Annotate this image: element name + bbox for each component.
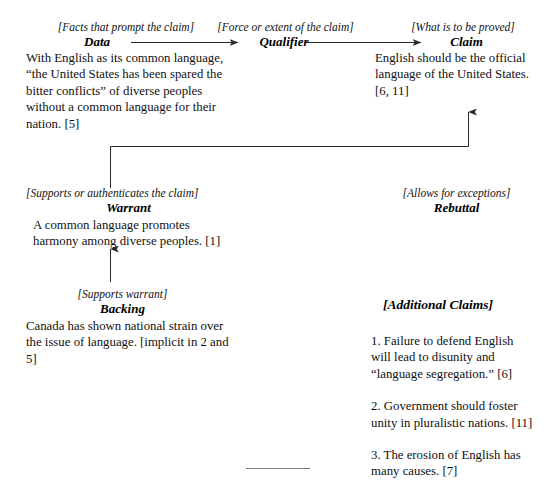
rebuttal-gloss: [Allows for exceptions] bbox=[384, 186, 529, 200]
rebuttal-term: Rebuttal bbox=[384, 200, 529, 215]
warrant-gloss: [Supports or authenticates the claim] bbox=[26, 186, 241, 200]
data-term: Data bbox=[0, 34, 226, 49]
node-backing: [Supports warrant] Backing Canada has sh… bbox=[26, 287, 231, 367]
additional-claim-item: 3. The erosion of English has many cause… bbox=[371, 447, 536, 480]
toulmin-diagram-page: [Facts that prompt the claim] Data With … bbox=[0, 0, 550, 488]
data-gloss: [Facts that prompt the claim] bbox=[26, 20, 226, 34]
node-rebuttal: [Allows for exceptions] Rebuttal bbox=[384, 186, 529, 215]
node-data: [Facts that prompt the claim] Data With … bbox=[26, 20, 226, 132]
backing-term: Backing bbox=[14, 301, 231, 316]
claim-gloss: [What is to be proved] bbox=[383, 20, 543, 34]
node-warrant: [Supports or authenticates the claim] Wa… bbox=[26, 186, 241, 250]
node-claim: [What is to be proved] Claim English sho… bbox=[383, 20, 543, 99]
backing-gloss: [Supports warrant] bbox=[14, 287, 231, 301]
claim-term: Claim bbox=[390, 34, 543, 49]
additional-claim-item: 2. Government should foster unity in plu… bbox=[371, 398, 541, 431]
qualifier-gloss: [Force or extent of the claim] bbox=[203, 20, 368, 34]
node-qualifier: [Force or extent of the claim] Qualifier bbox=[203, 20, 368, 49]
qualifier-term: Qualifier bbox=[200, 34, 368, 49]
additional-claims-block: [Additional Claims] 1. Failure to defend… bbox=[383, 297, 543, 480]
data-text: With English as its common language, “th… bbox=[26, 50, 226, 132]
additional-claims-heading: [Additional Claims] bbox=[383, 297, 543, 313]
backing-text: Canada has shown national strain over th… bbox=[26, 318, 231, 367]
warrant-text: A common language promotes harmony among… bbox=[33, 217, 233, 250]
warrant-term: Warrant bbox=[16, 200, 241, 215]
footer-divider-rule bbox=[246, 468, 310, 469]
additional-claim-item: 1. Failure to defend English will lead t… bbox=[371, 333, 536, 382]
claim-text: English should be the official language … bbox=[375, 50, 541, 99]
